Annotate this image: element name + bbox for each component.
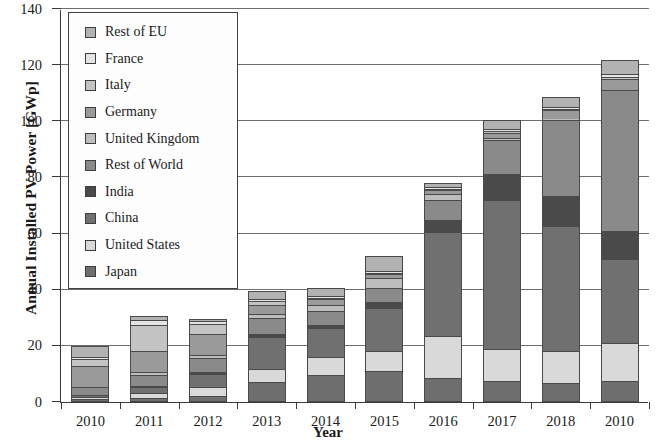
bar-segment-united-states (130, 393, 168, 398)
legend-item-rest-of-eu: Rest of EU (69, 19, 237, 46)
chart-legend: Rest of EUFranceItalyGermanyUnited Kingd… (68, 12, 238, 289)
bar-segment-china (189, 374, 227, 387)
legend-swatch-icon (85, 80, 96, 91)
bar-segment-germany (130, 351, 168, 372)
bar-segment-india (365, 302, 403, 308)
bar-segment-india (483, 174, 521, 200)
bar-segment-united-states (248, 369, 286, 382)
bar-segment-rest-of-world (71, 387, 109, 395)
bar-segment-germany (424, 190, 462, 194)
bar-segment-rest-of-eu (307, 288, 345, 295)
bar-segment-india (189, 372, 227, 375)
legend-swatch-icon (85, 160, 96, 171)
bar-segment-rest-of-world (307, 311, 345, 325)
bar-segment-united-states (189, 387, 227, 397)
bar-segment-rest-of-world (542, 120, 580, 196)
legend-swatch-icon (85, 266, 96, 277)
legend-label: Rest of World (105, 158, 183, 172)
bar-segment-germany (601, 79, 639, 90)
bar-segment-germany (483, 133, 521, 138)
bar-segment-united-states (307, 357, 345, 374)
bar-segment-japan (601, 381, 639, 402)
x-tick-label: 2010 (585, 413, 655, 430)
y-tick-mark (52, 233, 61, 234)
x-tick-mark (473, 402, 474, 409)
y-tick-label: 80 (0, 170, 42, 185)
bar-segment-united-kingdom (130, 372, 168, 375)
bar-segment-rest-of-eu (71, 346, 109, 358)
bar-segment-india (307, 325, 345, 328)
bar-segment-united-states (424, 336, 462, 378)
bar-segment-united-kingdom (189, 355, 227, 358)
y-tick-label: 100 (0, 114, 42, 129)
legend-label: Rest of EU (105, 25, 167, 39)
y-tick-label: 20 (0, 338, 42, 353)
bar-segment-rest-of-eu (365, 256, 403, 271)
legend-label: United Kingdom (105, 132, 200, 146)
legend-swatch-icon (85, 107, 96, 118)
bar-segment-india (424, 220, 462, 232)
x-tick-mark (531, 402, 532, 409)
bar-segment-italy (248, 301, 286, 305)
y-tick-label: 60 (0, 226, 42, 241)
legend-item-india: India (69, 179, 237, 206)
bar-segment-rest-of-eu (483, 120, 521, 129)
bar-segment-japan (542, 383, 580, 402)
bar-segment-france (248, 299, 286, 301)
bar-segment-france (307, 296, 345, 299)
bar-segment-france (483, 129, 521, 132)
y-tick-label: 140 (0, 2, 42, 17)
bar-segment-france (601, 74, 639, 77)
bar-segment-rest-of-eu (248, 291, 286, 299)
bar-segment-rest-of-world (601, 90, 639, 230)
bar-segment-italy (189, 324, 227, 334)
legend-label: France (105, 52, 143, 66)
bar-segment-france (542, 107, 580, 110)
bar-segment-united-kingdom (307, 305, 345, 312)
bar-segment-japan (483, 381, 521, 402)
legend-label: Japan (105, 265, 137, 279)
bar-segment-united-kingdom (424, 194, 462, 199)
legend-swatch-icon (85, 27, 96, 38)
bar-segment-japan (307, 375, 345, 402)
bar-segment-india (601, 231, 639, 259)
legend-swatch-icon (85, 240, 96, 251)
legend-item-china: China (69, 205, 237, 232)
bar-segment-france (365, 271, 403, 274)
bar-segment-japan (189, 396, 227, 402)
bar-segment-united-kingdom (248, 314, 286, 318)
y-tick-mark (52, 401, 61, 402)
bar-segment-united-states (365, 351, 403, 371)
bar-segment-china (483, 200, 521, 349)
legend-swatch-icon (85, 186, 96, 197)
bar-segment-italy (71, 359, 109, 365)
bar-segment-china (601, 259, 639, 343)
y-tick-mark (52, 120, 61, 121)
legend-item-germany: Germany (69, 99, 237, 126)
legend-item-rest-of-world: Rest of World (69, 152, 237, 179)
bar-segment-germany (365, 274, 403, 278)
y-tick-mark (52, 64, 61, 65)
bar-segment-united-states (601, 343, 639, 381)
legend-item-italy: Italy (69, 72, 237, 99)
legend-item-united-states: United States (69, 232, 237, 259)
bar-segment-rest-of-world (424, 200, 462, 220)
legend-item-france: France (69, 46, 237, 73)
x-tick-mark (414, 402, 415, 409)
bar-segment-rest-of-world (130, 375, 168, 386)
x-tick-mark (296, 402, 297, 409)
legend-item-japan: Japan (69, 258, 237, 285)
bar-segment-germany (307, 299, 345, 304)
bar-segment-china (365, 308, 403, 351)
bar-segment-rest-of-world (365, 288, 403, 302)
legend-swatch-icon (85, 213, 96, 224)
y-tick-label: 120 (0, 58, 42, 73)
bar-segment-germany (189, 334, 227, 355)
bar-segment-rest-of-eu (601, 60, 639, 75)
bar-segment-china (542, 226, 580, 351)
bar-segment-rest-of-eu (189, 319, 227, 321)
bar-segment-japan (424, 378, 462, 402)
bar-segment-germany (248, 305, 286, 314)
bar-segment-germany (71, 366, 109, 387)
bar-segment-india (248, 334, 286, 337)
